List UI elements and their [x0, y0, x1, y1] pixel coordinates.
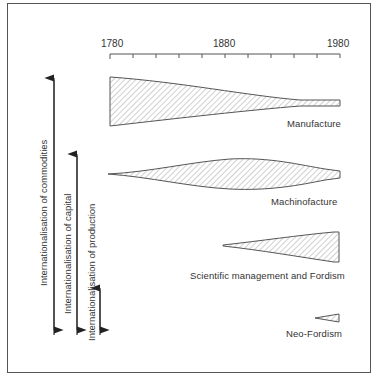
year-1880: 1880 [213, 38, 235, 49]
label-neo-fordism: Neo-Fordism [286, 328, 342, 339]
diagram-canvas [0, 0, 379, 383]
band-neo-fordism [315, 314, 339, 322]
label-internationalisation-production: Internationalisation of production [86, 204, 97, 341]
band-machinofacture [108, 159, 340, 190]
year-1980: 1980 [327, 38, 349, 49]
label-internationalisation-capital: Internationalisation of capital [62, 194, 73, 314]
label-scientific-management: Scientific management and Fordism [190, 270, 345, 281]
label-internationalisation-commodities: Internationalisation of commodities [38, 140, 49, 286]
band-scientific-management-fordism [223, 232, 339, 262]
year-1780: 1780 [101, 38, 123, 49]
time-axis [110, 54, 340, 59]
label-manufacture: Manufacture [287, 118, 341, 129]
label-machinofacture: Machinofacture [271, 196, 337, 207]
